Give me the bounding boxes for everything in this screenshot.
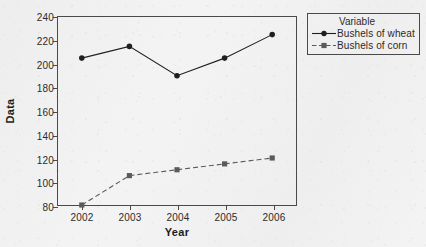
data-point-marker[interactable]: [174, 167, 179, 172]
y-tick-label: 200: [37, 59, 54, 70]
data-point-marker[interactable]: [79, 202, 84, 207]
legend-item-wheat[interactable]: Bushels of wheat: [311, 28, 416, 39]
x-tick-label: 2003: [118, 212, 141, 223]
data-point-marker[interactable]: [270, 155, 275, 160]
plot-area: 24022020018016014012010080 2002200320042…: [57, 16, 297, 206]
legend-title: Variable: [339, 16, 416, 27]
data-point-marker[interactable]: [222, 161, 227, 166]
y-tick-label: 80: [42, 202, 54, 213]
legend-label-corn: Bushels of corn: [337, 40, 407, 51]
y-tick-label: 180: [37, 83, 54, 94]
x-axis-title: Year: [165, 226, 189, 238]
plot-series-layer: [58, 17, 296, 205]
x-tick-label: 2006: [262, 212, 285, 223]
data-point-marker[interactable]: [174, 73, 180, 79]
legend: Variable Bushels of wheat Bushels of cor…: [307, 13, 420, 55]
y-tick-label: 220: [37, 35, 54, 46]
data-point-marker[interactable]: [222, 55, 228, 61]
data-point-marker[interactable]: [127, 44, 133, 50]
y-tick-label: 140: [37, 130, 54, 141]
series-line-bushels-of-corn: [82, 158, 272, 205]
x-tick-label: 2005: [214, 212, 237, 223]
legend-item-corn[interactable]: Bushels of corn: [311, 40, 416, 51]
x-tick-mark: [178, 205, 179, 210]
y-axis-title: Data: [4, 98, 16, 123]
chart-screenshot: Data 24022020018016014012010080 20022003…: [0, 0, 426, 247]
data-point-marker[interactable]: [127, 173, 132, 178]
x-tick-mark: [226, 205, 227, 210]
legend-symbol-dashed-square-icon: [311, 40, 337, 51]
legend-label-wheat: Bushels of wheat: [337, 28, 415, 39]
y-tick-label: 240: [37, 12, 54, 23]
y-tick-label: 100: [37, 178, 54, 189]
x-tick-mark: [130, 205, 131, 210]
y-tick-label: 160: [37, 107, 54, 118]
legend-symbol-solid-circle-icon: [311, 28, 337, 39]
x-tick-label: 2002: [70, 212, 93, 223]
series-line-bushels-of-wheat: [82, 35, 272, 76]
data-point-marker[interactable]: [79, 55, 85, 61]
y-tick-label: 120: [37, 154, 54, 165]
x-tick-mark: [274, 205, 275, 210]
data-point-marker[interactable]: [269, 32, 275, 38]
x-tick-label: 2004: [166, 212, 189, 223]
